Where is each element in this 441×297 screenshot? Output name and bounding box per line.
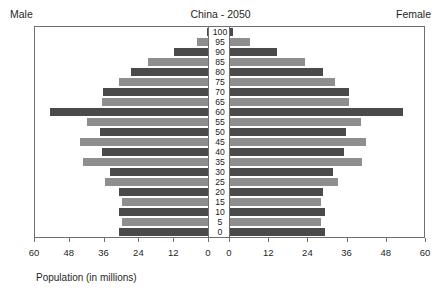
male-bar — [100, 128, 209, 136]
male-bar — [83, 158, 209, 166]
female-bar — [230, 208, 325, 216]
x-tick-mark — [104, 238, 105, 242]
male-bars-panel — [35, 27, 209, 237]
male-bar — [87, 118, 209, 126]
male-bar-row — [35, 207, 209, 217]
male-bar — [119, 208, 209, 216]
female-bar-row — [230, 197, 426, 207]
x-tick-mark — [208, 238, 209, 242]
male-bar — [119, 78, 209, 86]
female-bar-row — [230, 147, 426, 157]
male-bar — [119, 228, 209, 236]
female-bar — [230, 108, 403, 116]
female-panel-label: Female — [396, 8, 431, 20]
female-bar-row — [230, 57, 426, 67]
x-tick-mark — [268, 238, 269, 242]
female-bar — [230, 48, 277, 56]
x-tick-label-right: 24 — [302, 247, 313, 258]
x-tick-label-right: 0 — [226, 247, 231, 258]
age-group-label: 75 — [209, 78, 231, 86]
male-bar — [110, 168, 209, 176]
age-group-label: 45 — [209, 138, 231, 146]
x-tick-label-right: 12 — [263, 247, 274, 258]
male-bar-row — [35, 87, 209, 97]
female-bar — [230, 198, 321, 206]
age-axis-gutter: 0510152025303540455055606570758085909510… — [208, 27, 230, 237]
female-bar — [230, 78, 335, 86]
age-group-label: 15 — [209, 198, 231, 206]
x-tick-mark — [307, 238, 308, 242]
female-bar-row — [230, 37, 426, 47]
x-tick-mark — [229, 238, 230, 242]
age-group-label: 10 — [209, 208, 231, 216]
age-group-label: 30 — [209, 168, 231, 176]
age-group-label: 95 — [209, 38, 231, 46]
male-bar-row — [35, 147, 209, 157]
male-bar-row — [35, 137, 209, 147]
male-bar-row — [35, 127, 209, 137]
age-group-label: 85 — [209, 58, 231, 66]
female-bar-row — [230, 117, 426, 127]
x-tick-label-left: 12 — [168, 247, 179, 258]
page-title: China - 2050 — [0, 8, 441, 20]
age-group-label: 50 — [209, 128, 231, 136]
male-bar-row — [35, 157, 209, 167]
male-bar-row — [35, 197, 209, 207]
female-bar-row — [230, 137, 426, 147]
age-group-label: 90 — [209, 48, 231, 56]
male-bar — [50, 108, 210, 116]
female-bar — [230, 58, 305, 66]
x-tick-label-right: 36 — [341, 247, 352, 258]
male-bar-row — [35, 67, 209, 77]
male-bar-row — [35, 27, 209, 37]
age-group-label: 0 — [209, 228, 231, 236]
female-bar-row — [230, 167, 426, 177]
x-tick-mark — [173, 238, 174, 242]
male-bar — [80, 138, 209, 146]
female-bar-row — [230, 187, 426, 197]
male-bar — [122, 198, 209, 206]
x-tick-label-left: 0 — [205, 247, 210, 258]
female-bars-panel — [230, 27, 426, 237]
x-tick-mark — [347, 238, 348, 242]
female-bar — [230, 188, 323, 196]
female-bar — [230, 158, 362, 166]
x-tick-label-left: 36 — [98, 247, 109, 258]
female-bar-row — [230, 47, 426, 57]
female-bar-row — [230, 97, 426, 107]
female-bar — [230, 118, 361, 126]
x-tick-label-right: 48 — [381, 247, 392, 258]
male-bar — [102, 148, 209, 156]
x-tick-mark — [386, 238, 387, 242]
age-group-label: 60 — [209, 108, 231, 116]
age-group-label: 100 — [209, 28, 231, 36]
male-bar — [102, 98, 209, 106]
female-bar-row — [230, 77, 426, 87]
age-group-label: 20 — [209, 188, 231, 196]
female-bar-row — [230, 127, 426, 137]
male-bar — [174, 48, 209, 56]
female-bar — [230, 128, 346, 136]
male-bar-row — [35, 177, 209, 187]
male-bar-row — [35, 167, 209, 177]
male-bar-row — [35, 107, 209, 117]
male-bar-row — [35, 227, 209, 237]
age-group-label: 5 — [209, 218, 231, 226]
x-tick-label-left: 48 — [64, 247, 75, 258]
age-group-label: 40 — [209, 148, 231, 156]
age-group-label: 65 — [209, 98, 231, 106]
female-bar-row — [230, 27, 426, 37]
x-tick-mark — [34, 238, 35, 242]
male-bar-row — [35, 57, 209, 67]
x-tick-label-right: 60 — [420, 247, 431, 258]
female-bar-row — [230, 67, 426, 77]
male-bar — [119, 188, 209, 196]
male-bar-row — [35, 217, 209, 227]
male-bar-row — [35, 37, 209, 47]
female-bar — [230, 88, 349, 96]
x-tick-mark — [425, 238, 426, 242]
female-bar — [230, 178, 338, 186]
female-bar-row — [230, 177, 426, 187]
male-bar-row — [35, 97, 209, 107]
male-bar — [103, 88, 209, 96]
